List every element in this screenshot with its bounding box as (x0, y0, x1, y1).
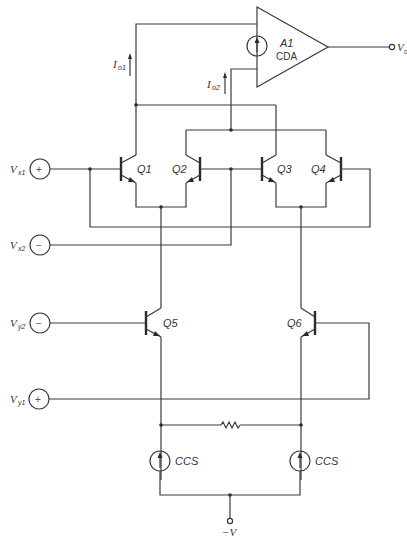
svg-text:−: − (36, 318, 42, 329)
transistor-q2: Q2 (172, 155, 200, 183)
svg-text:x2: x2 (17, 245, 26, 252)
transistor-q1: Q1 (121, 155, 152, 183)
svg-text:y1: y1 (17, 399, 26, 407)
q5-label: Q5 (163, 317, 179, 329)
transistor-q5: Q5 (146, 308, 179, 337)
current-source-left: CCS (150, 451, 199, 471)
arrow-up-icon (223, 72, 227, 78)
svg-text:V: V (10, 163, 18, 175)
svg-text:x1: x1 (17, 169, 26, 176)
svg-text:+: + (35, 394, 41, 405)
current-io1: I o1 (112, 53, 132, 76)
supply-terminal-icon (227, 518, 232, 523)
supply-label: −V (222, 526, 237, 538)
svg-text:−: − (36, 240, 42, 251)
circuit-diagram: A1 CDA V o I o1 I o2 Q1 (0, 0, 407, 545)
svg-text:CCS: CCS (175, 455, 199, 467)
input-vx1: V x1 + (10, 159, 50, 179)
svg-text:+: + (36, 164, 42, 175)
svg-text:o2: o2 (212, 84, 220, 91)
svg-text:V: V (10, 239, 18, 251)
amplifier-name: A1 (279, 37, 293, 49)
svg-text:V: V (10, 393, 18, 405)
svg-text:V: V (10, 317, 18, 329)
q2-label: Q2 (172, 163, 187, 175)
current-source-right: CCS (290, 451, 339, 471)
transistor-q4: Q4 (311, 155, 341, 183)
q3-label: Q3 (277, 163, 293, 175)
transistor-q6: Q6 (287, 308, 315, 337)
output-terminal-icon (389, 44, 394, 49)
transistor-q3: Q3 (262, 155, 293, 183)
q1-label: Q1 (137, 163, 152, 175)
q4-label: Q4 (311, 163, 326, 175)
arrow-up-icon (128, 53, 132, 59)
amplifier-a1: A1 CDA V o (247, 7, 407, 87)
input-vy1: V y1 + (10, 389, 49, 409)
svg-text:y2: y2 (17, 323, 26, 331)
resistor (159, 422, 303, 428)
current-io2: I o2 (206, 72, 227, 94)
input-vx2: V x2 − (10, 235, 50, 255)
svg-text:CCS: CCS (315, 455, 339, 467)
input-vy2: V y2 − (10, 313, 50, 333)
q6-label: Q6 (287, 317, 303, 329)
svg-text:o1: o1 (118, 64, 126, 71)
amplifier-type: CDA (276, 51, 297, 62)
